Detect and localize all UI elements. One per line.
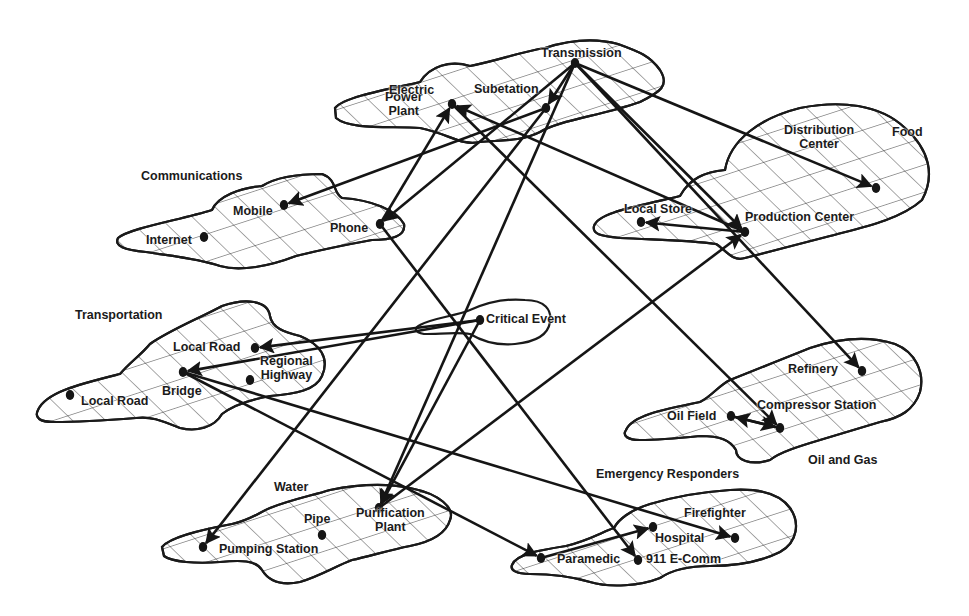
node-substation [542, 103, 550, 113]
node-pipe [318, 530, 326, 540]
node-hospital [649, 522, 657, 532]
sector-regions [37, 41, 929, 586]
sector-region-water [162, 485, 451, 583]
node-refinery [858, 366, 866, 376]
arrow-power-plant-to-compressor-station [452, 104, 776, 425]
arrow-critical-event-to-purification-plant [381, 320, 480, 504]
node-power-plant [448, 99, 456, 109]
node-firefighter [731, 533, 739, 543]
node-distribution-center [872, 183, 880, 193]
node-local-road-2 [66, 390, 74, 400]
node-phone [376, 219, 384, 229]
node-mobile [280, 200, 288, 210]
arrow-purification-plant-to-production-center [379, 235, 741, 508]
sector-region-transportation [37, 301, 325, 429]
node-internet [200, 232, 208, 242]
node-compressor-station [776, 423, 784, 433]
node-local-road-1 [251, 343, 259, 353]
node-critical-event [476, 315, 484, 325]
sector-region-emergency [512, 490, 796, 586]
node-911-ecomm [634, 555, 642, 565]
node-purification-plant [375, 503, 383, 513]
node-regional-highway [246, 375, 254, 385]
node-pumping-station [199, 542, 207, 552]
node-bridge [179, 367, 187, 377]
node-paramedic [537, 553, 545, 563]
sector-region-oil-gas [625, 339, 922, 462]
node-production-center [741, 227, 749, 237]
node-transmission [571, 58, 579, 68]
sector-region-food [594, 104, 929, 259]
sector-region-electric [335, 41, 664, 143]
node-oil-field [727, 411, 735, 421]
sector-region-communications [117, 174, 404, 268]
node-local-store [637, 217, 645, 227]
interdependency-diagram [0, 0, 969, 616]
